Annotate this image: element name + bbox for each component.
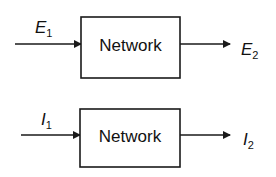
output-label: E2 [241,40,258,61]
network-block-label: Network [99,127,162,146]
network-diagrams: E1 Network E2 I1 Network I2 [0,0,276,177]
output-label: I2 [243,130,254,151]
input-label: I1 [41,110,52,131]
voltage-network-diagram: E1 Network E2 [15,17,258,78]
current-network-diagram: I1 Network I2 [21,109,254,167]
network-block-label: Network [99,36,162,55]
input-label: E1 [35,18,52,39]
